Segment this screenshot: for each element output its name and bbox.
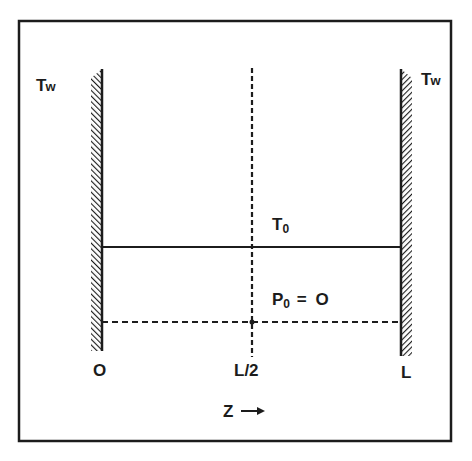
label-main: T	[36, 76, 45, 95]
diagram: Tw Tw T0 P0 = O O L/2 L Z	[0, 0, 472, 461]
label-main: T	[421, 70, 430, 89]
axis-label-midplane: L/2	[234, 362, 259, 379]
right-wall	[401, 69, 412, 356]
z-arrow-icon	[241, 407, 265, 415]
label-suffix: = O	[290, 290, 331, 309]
left-wall-temperature-label: Tw	[36, 77, 55, 94]
axis-label-length: L	[401, 364, 411, 381]
label-sub: 0	[282, 222, 289, 236]
intersection-point	[250, 320, 255, 325]
diagram-canvas	[0, 0, 472, 461]
temperature-label: T0	[272, 216, 289, 233]
label-main: T	[272, 215, 282, 234]
label-sub: w	[45, 79, 54, 94]
label-sub: 0	[283, 297, 290, 311]
pressure-label: P0 = O	[272, 291, 331, 308]
right-wall-temperature-label: Tw	[421, 71, 440, 88]
axis-variable-label: Z	[223, 403, 233, 420]
label-main: P	[272, 290, 283, 309]
label-sub: w	[430, 73, 439, 88]
axis-label-origin: O	[93, 362, 106, 379]
left-wall	[91, 69, 102, 351]
